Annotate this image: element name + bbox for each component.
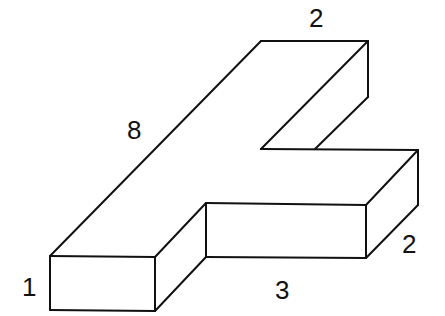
edge-long-diagonal: [50, 41, 261, 256]
label-height: 1: [22, 272, 36, 302]
edge-front-bottom: [206, 257, 366, 258]
edge-left-top: [50, 256, 155, 257]
diagram-canvas: 2 8 2 1 3: [0, 0, 445, 316]
t-shaped-solid-figure: 2 8 2 1 3: [0, 0, 445, 316]
edge-front-top: [206, 203, 366, 205]
label-right-depth: 2: [402, 229, 416, 259]
label-front-length: 3: [275, 275, 289, 305]
edge-right-top-diagonal: [366, 150, 418, 205]
edge-top-arm-lower-diagonal: [315, 97, 368, 149]
edge-notch-horizontal: [261, 149, 418, 150]
edge-top-arm-inner-diagonal: [261, 41, 368, 149]
solid-edges: [50, 41, 418, 311]
edge-connector-top-diagonal: [155, 203, 206, 257]
edge-connector-bottom-diagonal: [155, 257, 206, 311]
label-long-edge: 8: [127, 115, 141, 145]
label-top-width: 2: [309, 3, 323, 33]
edge-left-bottom: [50, 310, 155, 311]
